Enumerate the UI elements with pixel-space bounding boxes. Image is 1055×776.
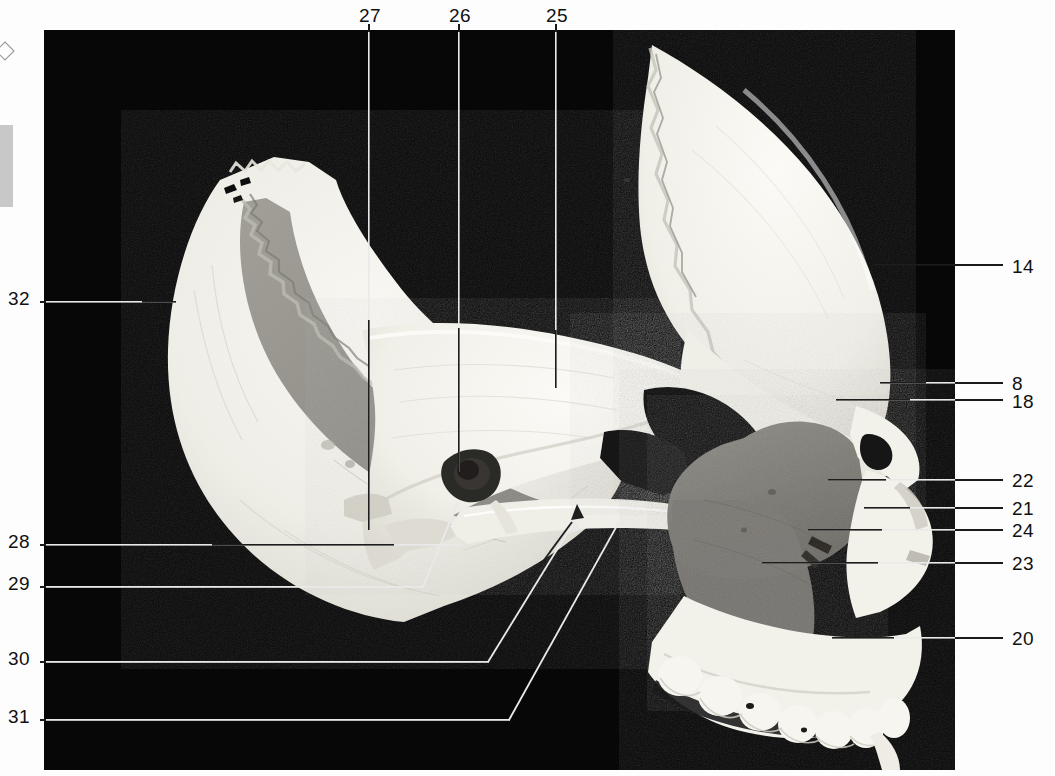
leader-line-21b bbox=[864, 507, 910, 509]
leader-stub-21 bbox=[955, 507, 1003, 509]
leader-line-23b bbox=[762, 562, 878, 564]
figure-page: 27 26 25 14 8 18 22 21 24 23 20 32 28 29… bbox=[0, 0, 1055, 776]
leader-line-22b bbox=[828, 479, 886, 481]
leader-stub-32 bbox=[40, 301, 46, 303]
leader-stub-31 bbox=[40, 719, 46, 721]
label-32: 32 bbox=[8, 289, 30, 308]
leader-line-14 bbox=[874, 264, 955, 266]
leader-stub-25 bbox=[555, 24, 557, 32]
skull-specimen-drawing bbox=[44, 30, 955, 770]
leader-stub-22 bbox=[955, 479, 1003, 481]
leader-line-8b bbox=[880, 382, 926, 384]
leader-line-25 bbox=[555, 30, 557, 388]
label-26: 26 bbox=[449, 6, 471, 25]
label-22: 22 bbox=[1012, 471, 1034, 490]
label-24: 24 bbox=[1012, 521, 1034, 540]
leader-stub-26 bbox=[458, 24, 460, 32]
leader-stub-20 bbox=[955, 637, 1003, 639]
leader-line-20b bbox=[832, 637, 894, 639]
label-18: 18 bbox=[1012, 392, 1034, 411]
leader-stub-23 bbox=[955, 562, 1003, 564]
leader-line-26 bbox=[458, 30, 460, 472]
leader-line-32b bbox=[142, 301, 176, 303]
label-25: 25 bbox=[546, 6, 568, 25]
label-29: 29 bbox=[8, 574, 30, 593]
leader-stub-30 bbox=[40, 661, 46, 663]
specimen-photograph bbox=[44, 30, 955, 770]
label-28: 28 bbox=[8, 532, 30, 551]
label-27: 27 bbox=[359, 6, 381, 25]
leader-line-24b bbox=[808, 529, 882, 531]
leader-stub-28 bbox=[40, 544, 46, 546]
leader-stub-18 bbox=[955, 399, 1003, 401]
leader-stub-29 bbox=[40, 586, 46, 588]
leader-line-27 bbox=[368, 30, 370, 530]
label-30: 30 bbox=[8, 649, 30, 668]
label-23: 23 bbox=[1012, 554, 1034, 573]
leader-line-28b bbox=[212, 544, 394, 546]
leader-stub-14 bbox=[955, 264, 1003, 266]
leader-stub-8 bbox=[955, 382, 1003, 384]
leader-stub-24 bbox=[955, 529, 1003, 531]
label-31: 31 bbox=[8, 707, 30, 726]
label-14: 14 bbox=[1012, 257, 1034, 276]
label-20: 20 bbox=[1012, 629, 1034, 648]
page-corner-mark-icon bbox=[0, 40, 16, 62]
label-21: 21 bbox=[1012, 499, 1034, 518]
leader-line-18b bbox=[836, 399, 910, 401]
page-margin-bar bbox=[0, 125, 13, 207]
leader-stub-27 bbox=[368, 24, 370, 32]
